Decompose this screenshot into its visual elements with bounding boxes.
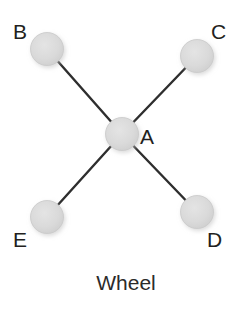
graph-edge <box>47 49 122 134</box>
graph-node-a[interactable] <box>106 118 139 151</box>
graph-node-e[interactable] <box>31 201 64 234</box>
node-label-d: D <box>207 229 222 250</box>
node-label-a: A <box>140 126 154 147</box>
node-label-b: B <box>13 21 27 42</box>
graph-canvas <box>0 0 252 315</box>
figure-caption: Wheel <box>0 271 252 295</box>
graph-node-d[interactable] <box>181 196 214 229</box>
graph-node-b[interactable] <box>31 33 64 66</box>
node-label-e: E <box>13 229 27 250</box>
node-label-c: C <box>211 21 226 42</box>
graph-node-c[interactable] <box>181 40 214 73</box>
wheel-graph-figure: ABCDE Wheel <box>0 0 252 315</box>
